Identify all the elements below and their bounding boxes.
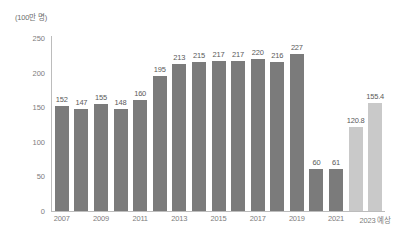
bar[interactable] [231,61,245,211]
y-axis-tick-label: 100 [32,137,45,146]
bar-group[interactable]: 216 [270,38,284,211]
bar-group[interactable]: 147 [74,38,88,211]
bar-value-label: 217 [213,50,225,59]
x-axis-tick-label: 2021 [328,214,344,223]
bar-group[interactable]: 217 [212,38,226,211]
bar-value-label: 155 [95,93,107,102]
bar[interactable] [192,62,206,211]
bars-container: 1521471551481601952132152172172202162276… [52,38,385,211]
y-axis-tick-label: 150 [32,103,45,112]
y-axis-unit-label: (100만 명) [15,11,47,22]
bar[interactable] [251,59,265,211]
bar-value-label: 217 [232,50,244,59]
bar-group[interactable]: 215 [192,38,206,211]
x-axis-tick-label: 2023 예상 [360,214,391,225]
bar-value-label: 220 [252,48,264,57]
bar[interactable] [114,109,128,211]
x-axis-line [51,211,385,212]
bar-group[interactable]: 227 [290,38,304,211]
bar-group[interactable]: 61 [329,38,343,211]
bar-group[interactable]: 155 [94,38,108,211]
bar-value-label: 160 [134,89,146,98]
bar-value-label: 152 [56,95,68,104]
bar[interactable] [172,64,186,211]
bar-group[interactable]: 60 [309,38,323,211]
x-axis-tick-label: 2015 [211,214,227,223]
bar[interactable] [368,103,382,211]
bar-value-label: 60 [312,158,320,167]
bar-value-label: 227 [291,43,303,52]
bar-group[interactable]: 152 [55,38,69,211]
y-axis-tick-label: 50 [37,172,45,181]
bar-group[interactable]: 213 [172,38,186,211]
bar[interactable] [309,169,323,211]
bar-value-label: 61 [332,158,340,167]
x-axis-tick-label: 2013 [171,214,187,223]
bar[interactable] [133,100,147,211]
bar[interactable] [212,61,226,211]
bar-group[interactable]: 220 [251,38,265,211]
bar-value-label: 148 [115,98,127,107]
bar-value-label: 215 [193,51,205,60]
bar-group[interactable]: 120.8 [349,38,363,211]
bar-group[interactable]: 217 [231,38,245,211]
bar-group[interactable]: 160 [133,38,147,211]
x-axis-tick-label: 2017 [250,214,266,223]
bar-value-label: 195 [154,65,166,74]
bar-group[interactable]: 195 [153,38,167,211]
x-axis-tick-label: 2007 [54,214,70,223]
bar-group[interactable]: 148 [114,38,128,211]
x-axis-tick-label: 2011 [132,214,147,223]
y-axis-tick-label: 200 [32,68,45,77]
x-axis-tick-label: 2019 [289,214,305,223]
bar[interactable] [329,169,343,211]
y-axis-tick-label: 0 [41,207,45,216]
bar-group[interactable]: 155.4 [368,38,382,211]
bar[interactable] [349,127,363,211]
bar-value-label: 213 [173,53,185,62]
x-axis-labels: 200720092011201320152017201920212023 예상 [52,214,385,234]
bar[interactable] [94,104,108,211]
bar-value-label: 155.4 [366,92,384,101]
bar[interactable] [270,62,284,211]
bar-value-label: 216 [271,51,283,60]
bar-value-label: 120.8 [347,116,365,125]
y-axis-tick-label: 250 [32,34,45,43]
bar[interactable] [290,54,304,211]
bar-value-label: 147 [75,98,87,107]
bar[interactable] [55,106,69,211]
bar[interactable] [74,109,88,211]
bar-chart: (100만 명) 050100150200250 152147155148160… [0,0,393,243]
x-axis-tick-label: 2009 [93,214,109,223]
bar[interactable] [153,76,167,211]
